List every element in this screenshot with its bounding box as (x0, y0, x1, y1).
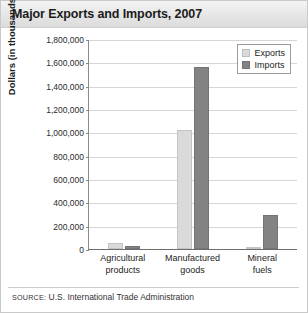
x-tick-label-line2: products (88, 265, 157, 277)
y-tick-label: 1,000,000 (46, 128, 84, 138)
legend-swatch-icon (242, 49, 250, 57)
y-tick-label: 1,400,000 (46, 82, 84, 92)
x-tick-label-line1: Manufactured (165, 253, 220, 263)
y-tick-label: 1,800,000 (46, 35, 84, 45)
bar-exports (108, 243, 123, 249)
x-tick-label-line2: goods (158, 265, 227, 277)
legend-label: Exports (254, 48, 285, 58)
y-tick-label: 1,200,000 (46, 105, 84, 115)
chart-title-bar: Major Exports and Imports, 2007 (1, 1, 307, 28)
source-note: SOURCE: U.S. International Trade Adminis… (12, 292, 194, 302)
bar-group (108, 40, 140, 249)
chart-figure: Major Exports and Imports, 2007 Dollars … (0, 0, 308, 313)
x-tick-label-line1: Mineral (247, 253, 277, 263)
legend-label: Imports (254, 60, 284, 70)
x-tick-label: Agricultural products (88, 253, 157, 283)
x-tick-label: Mineral fuels (228, 253, 297, 283)
y-tick-label: 1,600,000 (46, 58, 84, 68)
y-tick-mark (86, 250, 89, 251)
legend-swatch-icon (242, 61, 250, 69)
x-tick-label-line1: Agricultural (100, 253, 145, 263)
y-tick-label: 0 (79, 245, 84, 255)
x-tick-label: Manufactured goods (158, 253, 227, 283)
gridline (89, 250, 297, 251)
y-tick-label: 800,000 (53, 152, 84, 162)
x-axis-tick-labels: Agricultural products Manufactured goods… (88, 253, 297, 283)
source-text: U.S. International Trade Administration (46, 292, 194, 302)
source-prefix: SOURCE: (12, 293, 46, 302)
y-tick-label: 400,000 (53, 198, 84, 208)
page-title: Major Exports and Imports, 2007 (1, 7, 202, 21)
bar-imports (263, 215, 278, 249)
chart-legend: Exports Imports (237, 44, 291, 74)
y-tick-label: 600,000 (53, 175, 84, 185)
y-axis-tick-labels: 1,800,000 1,600,000 1,400,000 1,200,000 … (18, 40, 84, 250)
bar-imports (125, 246, 140, 249)
bar-group (177, 40, 209, 249)
y-tick-label: 200,000 (53, 222, 84, 232)
legend-item-exports: Exports (242, 48, 285, 58)
legend-item-imports: Imports (242, 60, 285, 70)
y-axis-title: Dollars (in thousands) (6, 0, 17, 100)
bar-exports (246, 247, 261, 249)
bar-imports (194, 67, 209, 249)
plot-card: Dollars (in thousands) 1,800,000 1,600,0… (8, 32, 301, 284)
divider (8, 287, 299, 288)
bar-exports (177, 130, 192, 249)
x-tick-label-line2: fuels (228, 265, 297, 277)
